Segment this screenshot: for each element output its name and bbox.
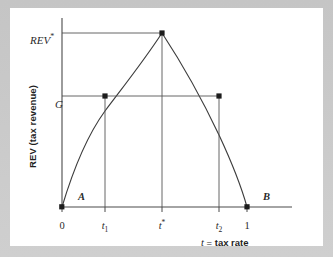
x-tick-label-t2-sub: 2 — [219, 225, 223, 234]
annotation-point-b: B — [263, 192, 270, 203]
data-point-b — [244, 204, 249, 209]
data-point-peak — [159, 30, 164, 35]
x-tick-label-0-text: 0 — [59, 220, 64, 231]
y-label-rev-star: REV* — [30, 35, 54, 46]
data-point-t2 — [216, 93, 221, 98]
annotation-point-a: A — [78, 192, 85, 203]
x-tick-label-t1: t1 — [102, 220, 109, 231]
figure-root: REV (tax revenue) REV* G A B 0 t1 t* t2 … — [0, 0, 333, 257]
y-label-g: G — [55, 99, 63, 110]
x-tick-label-t2: t2 — [216, 220, 223, 231]
data-point-t1 — [102, 93, 107, 98]
data-point-a — [59, 204, 64, 209]
x-axis-title-text: tax rate — [215, 237, 249, 248]
x-tick-label-1: 1 — [244, 220, 249, 231]
x-tick-label-0: 0 — [59, 220, 64, 231]
x-axis-title-equals: = — [204, 237, 215, 248]
y-label-rev-star-base: REV — [30, 34, 50, 46]
figure-panel: REV (tax revenue) REV* G A B 0 t1 t* t2 … — [11, 9, 322, 245]
x-tick-label-t-star: t* — [159, 220, 166, 231]
y-axis-title: REV (tax revenue) — [27, 57, 38, 197]
x-tick-label-t-star-sup: * — [162, 218, 166, 227]
x-axis-title: t = tax rate — [201, 237, 249, 248]
x-tick-label-1-text: 1 — [244, 220, 249, 231]
x-tick-label-t1-sub: 1 — [105, 225, 109, 234]
laffer-curve-plot — [11, 9, 322, 245]
y-label-rev-star-superscript: * — [50, 32, 54, 41]
